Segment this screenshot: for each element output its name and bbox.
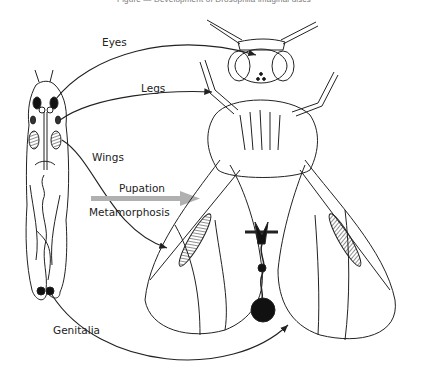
label-eyes: Eyes [102,36,127,48]
label-wings: Wings [92,151,124,163]
label-pupation: Pupation [119,182,165,194]
label-legs: Legs [141,82,165,94]
label-metamorphosis: Metamorphosis [89,206,170,218]
adult-fly-illustration [145,20,395,340]
label-genitalia: Genitalia [53,324,100,336]
larva-illustration [26,70,69,300]
